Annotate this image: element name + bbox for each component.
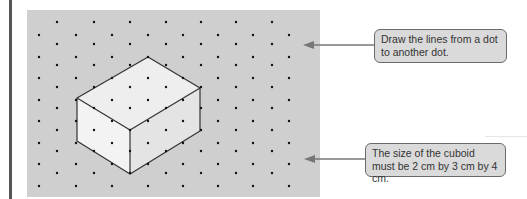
grid-dot <box>288 142 290 144</box>
grid-dot <box>271 150 273 152</box>
grid-dot <box>252 56 254 58</box>
grid-dot <box>93 107 95 109</box>
grid-dot <box>217 163 219 165</box>
grid-dot <box>147 142 149 144</box>
grid-dot <box>75 185 77 187</box>
grid-dot <box>129 150 131 152</box>
grid-dot <box>147 99 149 101</box>
grid-dot <box>56 107 58 109</box>
grid-dot <box>271 172 273 174</box>
grid-dot <box>288 34 290 36</box>
grid-dot <box>56 129 58 131</box>
grid-dot <box>235 21 237 23</box>
grid-dot <box>217 77 219 79</box>
grid-dot <box>271 64 273 66</box>
grid-dot <box>271 21 273 23</box>
grid-dot <box>93 21 95 23</box>
grid-dot <box>288 120 290 122</box>
grid-dot <box>129 86 131 88</box>
grid-dot <box>200 172 202 174</box>
grid-dot <box>56 86 58 88</box>
faint-line <box>485 136 527 137</box>
cuboid <box>77 57 200 174</box>
grid-dot <box>182 185 184 187</box>
grid-dot <box>235 86 237 88</box>
grid-dot <box>93 43 95 45</box>
grid-dot <box>129 107 131 109</box>
grid-dot <box>200 64 202 66</box>
grid-dot <box>129 64 131 66</box>
grid-dot <box>56 43 58 45</box>
arrowhead-left-icon <box>304 155 315 163</box>
grid-dot <box>75 142 77 144</box>
grid-dot <box>111 185 113 187</box>
grid-dot <box>252 120 254 122</box>
grid-dot <box>235 150 237 152</box>
grid-dot <box>147 163 149 165</box>
grid-dot <box>111 99 113 101</box>
arrowhead-left-icon <box>303 41 314 49</box>
grid-dot <box>147 120 149 122</box>
grid-dot <box>235 129 237 131</box>
grid-dot <box>75 34 77 36</box>
grid-dot <box>288 99 290 101</box>
grid-dot <box>252 163 254 165</box>
callout-text: Draw the lines from a dot to another dot… <box>381 33 498 58</box>
grid-dot <box>38 120 40 122</box>
grid-dot <box>147 77 149 79</box>
grid-dot <box>93 129 95 131</box>
grid-dot <box>75 163 77 165</box>
grid-dot <box>38 163 40 165</box>
grid-dot <box>235 64 237 66</box>
grid-dot <box>271 129 273 131</box>
arrow-bottom <box>304 155 365 163</box>
grid-dot <box>165 172 167 174</box>
grid-dot <box>182 142 184 144</box>
grid-dot <box>288 56 290 58</box>
grid-dot <box>182 56 184 58</box>
grid-dot <box>75 120 77 122</box>
grid-dot <box>38 56 40 58</box>
grid-dot <box>182 77 184 79</box>
grid-dot <box>38 77 40 79</box>
grid-dot <box>182 99 184 101</box>
grid-dot <box>111 142 113 144</box>
grid-dot <box>252 99 254 101</box>
grid-dot <box>182 163 184 165</box>
grid-dot <box>165 64 167 66</box>
grid-dot <box>111 56 113 58</box>
callout-draw-lines: Draw the lines from a dot to another dot… <box>374 29 507 63</box>
grid-dot <box>75 56 77 58</box>
grid-dot <box>93 86 95 88</box>
grid-dot <box>252 34 254 36</box>
grid-dot <box>271 107 273 109</box>
grid-dot <box>217 99 219 101</box>
grid-dot <box>235 43 237 45</box>
grid-dot <box>217 185 219 187</box>
grid-dot <box>200 107 202 109</box>
grid-dot <box>38 34 40 36</box>
arrow-top <box>303 41 374 49</box>
grid-dot <box>129 21 131 23</box>
grid-dot <box>165 21 167 23</box>
grid-dot <box>235 107 237 109</box>
grid-dot <box>165 86 167 88</box>
grid-dot <box>182 120 184 122</box>
grid-dot <box>271 43 273 45</box>
grid-dot <box>111 120 113 122</box>
grid-dot <box>147 56 149 58</box>
grid-dot <box>129 43 131 45</box>
grid-dot <box>252 185 254 187</box>
grid-dot <box>271 86 273 88</box>
grid-dot <box>38 142 40 144</box>
grid-dot <box>235 172 237 174</box>
grid-dot <box>93 64 95 66</box>
callout-cuboid-size: The size of the cuboid must be 2 cm by 3… <box>365 143 506 177</box>
grid-dot <box>38 185 40 187</box>
grid-dot <box>56 172 58 174</box>
grid-dot <box>56 150 58 152</box>
grid-dot <box>93 172 95 174</box>
grid-dot <box>200 150 202 152</box>
grid-dot <box>217 56 219 58</box>
grid-dot <box>288 185 290 187</box>
